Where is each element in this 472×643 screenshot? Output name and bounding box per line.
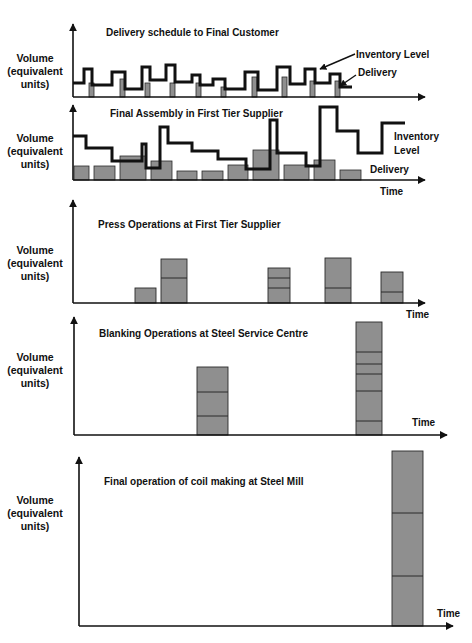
delivery-bar	[94, 166, 115, 180]
panel-title: Blanking Operations at Steel Service Cen…	[99, 328, 308, 339]
panel-title: Final operation of coil making at Steel …	[104, 476, 304, 487]
stacked-bar	[197, 367, 228, 435]
x-axis-label: Time	[380, 186, 404, 197]
series-label: Inventory	[394, 131, 439, 142]
y-axis-label: Volume	[16, 351, 53, 363]
y-axis-label: (equivalent	[7, 507, 63, 519]
series-label: Level	[394, 145, 420, 156]
series-label: Delivery	[370, 164, 409, 175]
panel-title: Final Assembly in First Tier Supplier	[110, 108, 283, 119]
y-axis-label: (equivalent	[7, 364, 63, 376]
delivery-bar	[170, 83, 175, 97]
y-axis-label: units)	[21, 78, 50, 90]
delivery-bar	[253, 150, 279, 180]
y-axis-label: units)	[21, 520, 50, 532]
y-axis-label: Volume	[16, 244, 53, 256]
y-axis-label: units)	[21, 270, 50, 282]
stacked-bar	[268, 268, 290, 303]
y-axis-label: Volume	[16, 494, 53, 506]
panel-title: Delivery schedule to Final Customer	[106, 27, 279, 38]
delivery-bar	[145, 83, 150, 97]
x-axis-label: Time	[406, 309, 430, 320]
panel-3: Volume(equivalentunits)Press Operations …	[7, 200, 429, 320]
annotation-label: Delivery	[358, 67, 397, 78]
annotation-arrow	[320, 54, 355, 69]
delivery-bar	[74, 166, 89, 180]
y-axis-label: units)	[21, 377, 50, 389]
supply-chain-volume-figure: Volume(equivalentunits)Delivery schedule…	[0, 0, 472, 643]
panel-5: Volume(equivalentunits)Final operation o…	[7, 451, 460, 626]
y-axis-label: Volume	[16, 132, 53, 144]
stacked-bar	[356, 322, 382, 435]
panel-2: Volume(equivalentunits)Final Assembly in…	[7, 105, 439, 197]
panel-title: Press Operations at First Tier Supplier	[98, 219, 281, 230]
annotation-arrow	[340, 75, 356, 86]
y-axis-label: (equivalent	[7, 145, 63, 157]
y-axis-label: (equivalent	[7, 65, 63, 77]
delivery-bar	[340, 170, 361, 180]
stacked-bar	[161, 259, 187, 303]
stacked-bar	[392, 451, 423, 626]
stacked-bar	[135, 288, 156, 303]
annotation-label: Inventory Level	[356, 49, 430, 60]
delivery-bar	[314, 160, 335, 180]
stacked-bar	[325, 258, 351, 303]
delivery-bar	[282, 77, 287, 97]
x-axis-label: Time	[412, 417, 436, 428]
x-axis-label: Time	[437, 608, 461, 619]
delivery-bar	[177, 171, 197, 180]
y-axis-label: units)	[21, 158, 50, 170]
y-axis-label: Volume	[16, 52, 53, 64]
panel-1: Volume(equivalentunits)Delivery schedule…	[7, 24, 429, 97]
delivery-bar	[202, 171, 223, 180]
panel-4: Volume(equivalentunits)Blanking Operatio…	[7, 317, 447, 435]
stacked-bar	[381, 272, 403, 303]
y-axis-label: (equivalent	[7, 257, 63, 269]
delivery-bar	[252, 77, 257, 97]
